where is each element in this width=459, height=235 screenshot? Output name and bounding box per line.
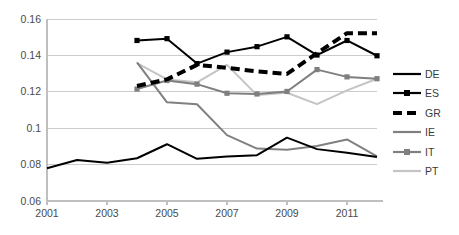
data-point-marker	[164, 36, 169, 41]
x-tick-label: 2003	[95, 207, 119, 219]
data-series-layer	[47, 33, 380, 168]
data-point-marker	[284, 89, 289, 94]
x-tick-label: 2007	[215, 207, 239, 219]
legend-swatch-it-icon	[392, 145, 422, 159]
legend-swatch-de-icon	[392, 67, 422, 81]
series-gr	[137, 33, 377, 86]
chart-plot-area: 0.060.080.10.120.140.16 2001200320052007…	[0, 0, 459, 235]
legend-item-es[interactable]: ES	[392, 84, 458, 104]
data-point-marker	[344, 38, 349, 43]
legend-label: ES	[422, 88, 439, 99]
data-point-marker	[134, 38, 139, 43]
x-tick-label: 2011	[336, 207, 359, 219]
series-line	[137, 33, 377, 86]
data-point-marker	[344, 74, 349, 79]
legend-label: DE	[422, 69, 440, 80]
data-point-marker	[194, 82, 199, 87]
y-tick-label: 0.14	[21, 49, 42, 61]
x-tick-label: 2009	[275, 207, 299, 219]
line-chart: 0.060.080.10.120.140.16 2001200320052007…	[0, 0, 459, 235]
series-de	[47, 138, 377, 169]
series-es	[134, 34, 379, 66]
data-point-marker	[254, 44, 259, 49]
legend-marker	[404, 90, 410, 96]
series-line	[47, 138, 377, 169]
legend-label: PT	[422, 166, 438, 177]
x-axis	[47, 201, 383, 205]
legend-swatch-ie-icon	[392, 125, 422, 139]
y-tick-label: 0.1	[26, 122, 41, 134]
legend-label: GR	[422, 108, 441, 119]
data-point-marker	[374, 76, 379, 81]
x-tick-labels: 200120032005200720092011	[35, 207, 358, 219]
legend-item-pt[interactable]: PT	[392, 162, 458, 182]
series-line	[137, 63, 377, 104]
legend-swatch-pt-icon	[392, 164, 422, 178]
data-point-marker	[224, 91, 229, 96]
series-pt	[137, 63, 377, 104]
legend-swatch-gr-icon	[392, 106, 422, 120]
y-tick-label: 0.12	[21, 85, 42, 97]
legend-swatch-es-icon	[392, 86, 422, 100]
legend-item-de[interactable]: DE	[392, 64, 458, 84]
legend-label: IT	[422, 147, 434, 158]
data-point-marker	[254, 91, 259, 96]
data-point-marker	[374, 53, 379, 58]
series-line	[137, 70, 377, 94]
legend-item-gr[interactable]: GR	[392, 103, 458, 123]
legend-item-it[interactable]: IT	[392, 142, 458, 162]
data-point-marker	[284, 34, 289, 39]
x-tick-label: 2001	[35, 207, 59, 219]
y-tick-label: 0.08	[21, 158, 42, 170]
legend-item-ie[interactable]: IE	[392, 123, 458, 143]
legend-marker	[404, 149, 410, 155]
y-tick-label: 0.06	[21, 195, 42, 207]
data-point-marker	[224, 50, 229, 55]
y-tick-label: 0.16	[21, 13, 42, 25]
series-line	[137, 37, 377, 64]
x-tick-label: 2005	[155, 207, 179, 219]
data-point-marker	[314, 67, 319, 72]
y-tick-labels: 0.060.080.10.120.140.16	[21, 13, 42, 207]
legend-label: IE	[422, 127, 435, 138]
chart-legend: DEESGRIEITPT	[392, 64, 458, 181]
